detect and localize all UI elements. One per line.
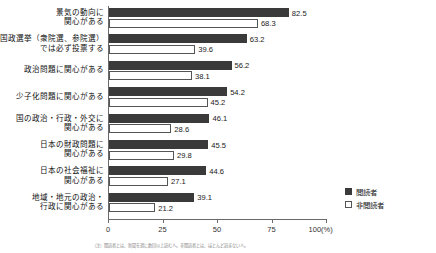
row-label-line: 日本の社会福祉に: [0, 166, 104, 175]
bar-nonreader: [109, 151, 174, 160]
x-axis-tick-label: 75: [267, 225, 275, 234]
x-axis-tick: [326, 219, 327, 223]
row-label: 政治問題に関心がある: [0, 65, 104, 74]
row-label-line: 地域・地元の政治・: [0, 193, 104, 202]
bar-reader: [109, 87, 227, 96]
bar-value-nonreader: 29.8: [177, 151, 192, 160]
bar-nonreader: [109, 19, 258, 28]
x-axis-tick-label: 25: [158, 225, 166, 234]
bar-nonreader: [109, 203, 155, 212]
row-label-line: 関心がある: [0, 17, 104, 26]
chart-legend: 閲読者 非閲読者: [345, 186, 384, 212]
row-label: 国の政治・行政・外交に関心がある: [0, 114, 104, 133]
row-label: 日本の社会福祉に関心がある: [0, 166, 104, 185]
bar-chart: 景気の動向に関心がある82.568.3国政選挙（衆院選、参院選）では必ず投票する…: [0, 0, 436, 253]
bar-value-reader: 45.5: [211, 141, 226, 150]
bar-nonreader: [109, 177, 168, 186]
legend-swatch-nonreader-icon: [345, 201, 352, 208]
x-axis-tick: [272, 219, 273, 223]
x-axis-tick-label: 100(%): [309, 225, 333, 234]
bar-value-reader: 39.1: [197, 193, 212, 202]
bar-reader: [109, 166, 206, 175]
bar-nonreader: [109, 45, 195, 54]
bar-reader: [109, 61, 232, 70]
row-label: 景気の動向に関心がある: [0, 8, 104, 27]
x-axis-tick: [108, 219, 109, 223]
bar-nonreader: [109, 71, 192, 80]
bar-value-reader: 82.5: [292, 9, 307, 18]
bar-value-nonreader: 38.1: [195, 72, 210, 81]
bar-reader: [109, 34, 247, 43]
legend-item-reader: 閲読者: [345, 186, 384, 197]
row-label-line: 景気の動向に: [0, 8, 104, 17]
row-label-line: 日本の財政問題に: [0, 140, 104, 149]
bar-value-reader: 56.2: [235, 61, 250, 70]
row-label-line: 国政選挙（衆院選、参院選）: [0, 34, 104, 43]
row-label-line: 関心がある: [0, 149, 104, 158]
bar-value-nonreader: 39.6: [198, 45, 213, 54]
x-axis-tick: [163, 219, 164, 223]
bar-value-nonreader: 28.6: [174, 125, 189, 134]
bar-value-reader: 46.1: [212, 114, 227, 123]
bar-reader: [109, 114, 209, 123]
chart-footnote: （注）閲読者とは、新聞を週に数回以上読む人。非閲読者とは、ほとんど読まない人。: [92, 243, 392, 249]
legend-label-reader: 閲読者: [356, 186, 377, 197]
x-axis-tick: [217, 219, 218, 223]
row-label-line: では必ず投票する: [0, 44, 104, 53]
bar-value-nonreader: 68.3: [261, 19, 276, 28]
legend-item-nonreader: 非閲読者: [345, 199, 384, 210]
bar-value-nonreader: 45.2: [211, 98, 226, 107]
bar-value-nonreader: 21.2: [158, 204, 173, 213]
row-label: 日本の財政問題に関心がある: [0, 140, 104, 159]
bar-nonreader: [109, 124, 171, 133]
row-label-line: 行政に関心がある: [0, 202, 104, 211]
row-label-line: 関心がある: [0, 123, 104, 132]
x-axis-tick-label: 50: [213, 225, 221, 234]
bar-nonreader: [109, 98, 208, 107]
row-label: 国政選挙（衆院選、参院選）では必ず投票する: [0, 34, 104, 53]
x-axis-tick-label: 0: [106, 225, 110, 234]
legend-swatch-reader-icon: [345, 188, 352, 195]
bar-value-reader: 63.2: [250, 35, 265, 44]
row-label: 少子化問題に関心がある: [0, 92, 104, 101]
row-label: 地域・地元の政治・行政に関心がある: [0, 193, 104, 212]
row-label-line: 関心がある: [0, 176, 104, 185]
row-label-line: 国の政治・行政・外交に: [0, 114, 104, 123]
bar-reader: [109, 193, 194, 202]
legend-label-nonreader: 非閲読者: [356, 199, 384, 210]
bar-value-reader: 54.2: [230, 88, 245, 97]
bar-value-nonreader: 27.1: [171, 177, 186, 186]
bar-reader: [109, 8, 289, 17]
bar-value-reader: 44.6: [209, 167, 224, 176]
bar-reader: [109, 140, 208, 149]
row-label-line: 政治問題に関心がある: [0, 65, 104, 74]
row-label-line: 少子化問題に関心がある: [0, 92, 104, 101]
